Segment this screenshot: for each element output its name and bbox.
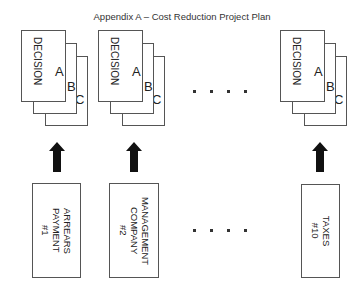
up-arrow-icon <box>312 142 328 172</box>
up-arrow-icon <box>126 142 142 172</box>
option-letter-b: B <box>144 80 153 93</box>
decision-card-a: DECISION A <box>21 30 66 102</box>
source-box-management-company: MANAGEMENT COMPANY #2 <box>109 183 159 278</box>
ellipsis-dot <box>210 229 213 232</box>
option-letter-a: A <box>55 65 64 78</box>
ellipsis-bottom <box>193 229 247 232</box>
option-letter-a: A <box>314 65 323 78</box>
ellipsis-dot <box>193 90 196 93</box>
up-arrow-icon <box>49 142 65 172</box>
decision-card-a: DECISION A <box>280 30 325 102</box>
ellipsis-dot <box>227 229 230 232</box>
source-label: ARREARS PAYMENT #1 <box>40 208 73 254</box>
option-letter-b: B <box>326 80 335 93</box>
ellipsis-dot <box>244 229 247 232</box>
ellipsis-dot <box>193 229 196 232</box>
decision-label: DECISION <box>109 37 120 85</box>
decision-card-a: DECISION A <box>98 30 143 102</box>
decision-label: DECISION <box>291 37 302 85</box>
ellipsis-top <box>193 90 247 93</box>
option-letter-b: B <box>67 80 76 93</box>
ellipsis-dot <box>244 90 247 93</box>
source-box-arrears-payment: ARREARS PAYMENT #1 <box>32 183 81 278</box>
ellipsis-dot <box>210 90 213 93</box>
ellipsis-dot <box>227 90 230 93</box>
source-label: TAXES #10 <box>310 216 332 246</box>
option-letter-a: A <box>132 65 141 78</box>
diagram-title: Appendix A – Cost Reduction Project Plan <box>0 11 364 22</box>
source-label: MANAGEMENT COMPANY #2 <box>118 196 151 264</box>
decision-label: DECISION <box>32 37 43 85</box>
source-box-taxes: TAXES #10 <box>301 184 340 278</box>
